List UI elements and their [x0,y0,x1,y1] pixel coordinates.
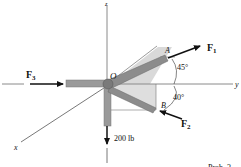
load-label: 200 lb [114,134,134,143]
y-axis-label: y [234,80,239,89]
f2-label: F2 [181,118,191,131]
f1-arrow [168,46,200,58]
f3-label: F3 [26,69,36,82]
x-axis [21,86,107,142]
caption: Prob. 3 [208,163,231,167]
member-f3-rod [66,80,108,87]
point-b-label: B [161,101,166,110]
point-a-label: A [164,46,170,55]
angle-40-label: 40° [173,93,184,102]
x-axis-label: x [13,143,18,152]
f2-arrow [160,111,182,119]
angle-45-label: 45° [177,63,188,72]
force-diagram: z y x O A B F1 F2 F3 200 lb 45° 40° Prob… [0,0,241,167]
angle-arc-45 [172,59,177,84]
point-o-label: O [110,71,117,81]
f1-label: F1 [207,42,217,55]
